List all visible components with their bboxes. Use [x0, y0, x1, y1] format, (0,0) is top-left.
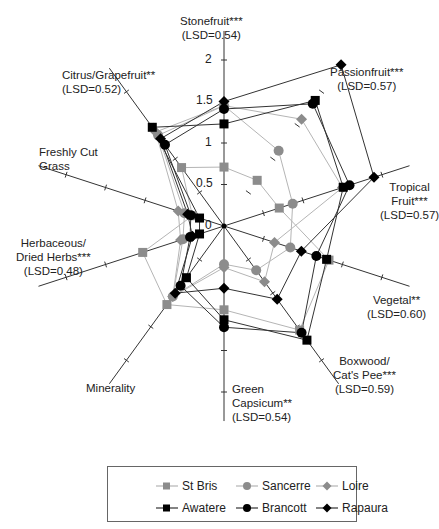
- square-marker-icon: [220, 305, 229, 314]
- circle-marker-icon: [288, 199, 298, 209]
- square-marker-icon: [148, 123, 157, 132]
- axis-tick: [270, 157, 275, 161]
- square-marker-icon: [195, 214, 204, 223]
- axis-label-stonefruit: Stonefruit*** (LSD=0.54): [180, 14, 243, 42]
- tick-label-1: 1: [205, 135, 212, 149]
- gray-diamond-marker-icon: [316, 481, 338, 491]
- legend-label: Brancott: [262, 501, 307, 515]
- square-marker-icon: [138, 248, 147, 257]
- square-marker-icon: [220, 163, 229, 172]
- tick-label-1-5: 1.5: [196, 93, 213, 107]
- diamond-marker-icon: [296, 114, 307, 125]
- axis-tick: [319, 359, 324, 363]
- diamond-marker-icon: [259, 276, 270, 287]
- axis-label-boxwood: Boxwood/ Cat's Pee*** (LSD=0.59): [333, 354, 396, 396]
- circle-marker-icon: [285, 243, 295, 253]
- circle-marker-icon: [297, 328, 307, 338]
- square-marker-icon: [253, 176, 262, 185]
- legend-item-sancerre: Sancerre: [236, 479, 311, 493]
- square-marker-icon: [322, 255, 331, 264]
- square-marker-icon: [177, 163, 186, 172]
- axis-label-grass: Freshly Cut Grass: [39, 145, 98, 173]
- legend-label: Loire: [342, 479, 369, 493]
- axis-label-vegetal: Vegetal** (LSD=0.60): [367, 293, 426, 321]
- gray-circle-marker-icon: [236, 481, 258, 491]
- black-square-marker-icon: [156, 503, 178, 513]
- axis-tick: [246, 258, 251, 262]
- circle-marker-icon: [274, 146, 284, 156]
- legend-label: St Bris: [182, 479, 217, 493]
- axis-tick: [246, 191, 251, 195]
- axis-tick: [124, 359, 129, 363]
- axis-label-minerality: Minerality: [86, 381, 135, 395]
- legend-item-st-bris: St Bris: [156, 479, 217, 493]
- black-circle-marker-icon: [236, 503, 258, 513]
- legend-item-loire: Loire: [316, 479, 369, 493]
- circle-marker-icon: [176, 281, 186, 291]
- axis-tick: [197, 258, 202, 262]
- black-diamond-marker-icon: [316, 503, 338, 513]
- series-line: [152, 100, 343, 340]
- circle-marker-icon: [311, 251, 321, 261]
- legend: St Bris Sancerre Loire Awatere Brancott …: [107, 466, 357, 522]
- axis-label-citrus: Citrus/Grapefruit** (LSD=0.52): [62, 68, 155, 96]
- axis-label-capsicum: Green Capsicum** (LSD=0.54): [232, 382, 292, 424]
- tick-label-0: 0: [205, 218, 212, 232]
- axis-tick: [148, 325, 153, 329]
- circle-marker-icon: [251, 265, 261, 275]
- legend-item-brancott: Brancott: [236, 501, 307, 515]
- square-marker-icon: [275, 204, 284, 213]
- center-point: [222, 224, 227, 229]
- legend-item-awatere: Awatere: [156, 501, 226, 515]
- tick-label-2: 2: [205, 52, 212, 66]
- diamond-marker-icon: [269, 237, 280, 248]
- diamond-marker-icon: [219, 283, 230, 294]
- square-marker-icon: [182, 273, 191, 282]
- axis-label-passionfruit: Passionfruit*** (LSD=0.57): [330, 65, 404, 93]
- axis-tick: [197, 191, 202, 195]
- axis-label-tropical: Tropical Fruit*** (LSD=0.57): [380, 180, 439, 222]
- axis-tick: [173, 157, 178, 161]
- axis-label-herbaceous: Herbaceous/ Dried Herbs*** (LSD=0.48): [16, 236, 91, 278]
- axis-tick: [270, 291, 275, 295]
- legend-label: Awatere: [182, 501, 226, 515]
- axis-tick: [319, 90, 324, 94]
- square-marker-icon: [162, 300, 171, 309]
- legend-label: Rapaura: [342, 501, 388, 515]
- circle-marker-icon: [219, 322, 229, 332]
- diamond-marker-icon: [272, 294, 283, 305]
- axis-tick: [295, 124, 300, 128]
- legend-label: Sancerre: [262, 479, 311, 493]
- circle-marker-icon: [345, 180, 355, 190]
- legend-item-rapaura: Rapaura: [316, 501, 388, 515]
- gray-square-marker-icon: [156, 481, 178, 491]
- square-marker-icon: [220, 119, 229, 128]
- tick-label-0-5: 0.5: [196, 176, 213, 190]
- circle-marker-icon: [308, 99, 318, 109]
